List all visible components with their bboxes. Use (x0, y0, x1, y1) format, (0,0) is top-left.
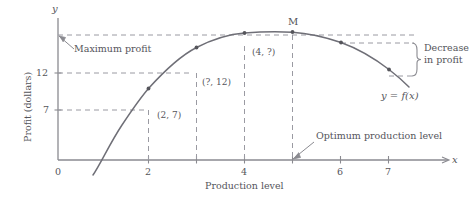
marker-point-2-7 (147, 87, 151, 91)
x-tick-label-6: 6 (337, 167, 343, 177)
marker-point-maximum (291, 30, 295, 34)
optimum-production-level-leader (293, 142, 314, 159)
y-tick-label-12: 12 (36, 68, 48, 78)
point-label-4-unknown: (4, ?) (252, 48, 275, 57)
x-tick-label-4: 4 (241, 167, 247, 177)
decrease-bracket (412, 43, 421, 76)
x-tick-label-0: 0 (55, 167, 61, 177)
y-axis-variable-label: y (52, 4, 58, 14)
point-label-unknown-12: (?, 12) (202, 78, 231, 87)
annotation-decrease-in-profit: Decrease in profit (424, 42, 469, 66)
marker-point-decrease-start (339, 41, 343, 45)
marker-point-unknown-12 (195, 46, 199, 50)
marker-point-4-unknown (243, 31, 247, 35)
annotation-decrease-line2: in profit (424, 54, 469, 66)
y-axis-title: Profit (dollars) (22, 72, 33, 142)
curve-equation-label: y = f(x) (381, 91, 419, 101)
profit-curve-figure: y x Profit (dollars) Production level 12… (0, 0, 472, 202)
x-tick-label-2: 2 (145, 167, 151, 177)
point-label-maximum: M (288, 17, 298, 27)
chart-canvas (0, 0, 472, 202)
x-axis-title: Production level (205, 181, 284, 191)
y-tick-label-7: 7 (43, 105, 49, 115)
x-tick-label-7: 7 (385, 167, 391, 177)
annotation-maximum-profit: Maximum profit (74, 44, 151, 54)
point-label-2-7: (2, 7) (157, 111, 181, 120)
annotation-optimum-production-level: Optimum production level (316, 131, 442, 141)
marker-point-decrease-end (387, 68, 391, 72)
maximum-profit-leader (59, 36, 74, 49)
curve-point-markers (147, 30, 391, 90)
annotation-decrease-line1: Decrease (424, 42, 469, 54)
x-axis-variable-label: x (452, 155, 458, 165)
